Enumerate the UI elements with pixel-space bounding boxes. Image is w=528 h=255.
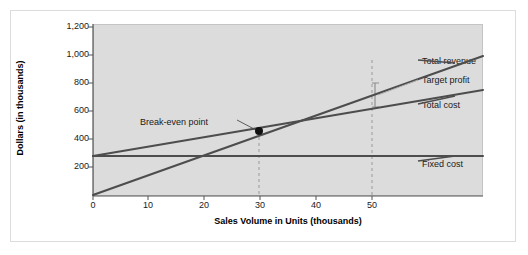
break-even-point-marker (255, 127, 263, 135)
break-even-chart-figure: 1,200 1,000 800 600 400 200 0 10 20 30 4… (0, 0, 528, 255)
series-line-total-revenue (93, 56, 483, 195)
x-axis-ticks (93, 196, 372, 200)
leader-line-target-profit (378, 80, 418, 95)
y-axis-ticks (88, 27, 93, 167)
leader-line-break-even (237, 120, 256, 130)
leader-line-total-revenue (418, 60, 455, 63)
series-line-total-cost (93, 90, 483, 156)
chart-vector-layer (0, 0, 528, 255)
